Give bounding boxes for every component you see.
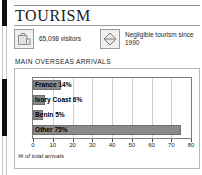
stats-row: 65,098 visitors Negligible tourism since… — [14, 29, 200, 55]
x-tick-label: 10 — [49, 142, 56, 149]
x-tick-label: 60 — [148, 142, 155, 149]
chart-panel: France 14%Ivory Coast 6%Benin 5%Other 75… — [14, 68, 200, 169]
x-tick-label: 20 — [69, 142, 76, 149]
chart-bar-row: Other 75% — [33, 123, 191, 138]
section-heading: MAIN OVERSEAS ARRIVALS — [15, 58, 111, 65]
stat-trend: Negligible tourism since 1990 — [100, 29, 197, 49]
content-column: TOURISM 65,098 visitors — [12, 0, 202, 175]
chart-bars: France 14%Ivory Coast 6%Benin 5%Other 75… — [33, 78, 191, 138]
x-tick-label: 80 — [188, 142, 195, 149]
diamond-icon — [100, 29, 120, 49]
chart-bar-row: France 14% — [33, 78, 191, 93]
page-title: TOURISM — [15, 7, 91, 24]
stat-visitors: 65,098 visitors — [14, 29, 81, 49]
x-tick-label: 30 — [89, 142, 96, 149]
stat-trend-label: Negligible tourism since 1990 — [125, 31, 197, 47]
suitcase-icon — [14, 29, 34, 49]
x-tick-label: 40 — [109, 142, 116, 149]
tourism-infographic-page: TOURISM 65,098 visitors — [0, 0, 202, 175]
chart-bar-row: Benin 5% — [33, 108, 191, 123]
title-underline-divider — [14, 25, 200, 26]
chart-bar-label: Ivory Coast 6% — [35, 96, 82, 104]
x-tick-label: 50 — [128, 142, 135, 149]
x-tick-label: 0 — [31, 142, 34, 149]
chart-plot-area: France 14%Ivory Coast 6%Benin 5%Other 75… — [32, 77, 192, 139]
top-divider — [14, 5, 200, 6]
chart-x-axis: 01020304050607080 — [32, 139, 192, 151]
chart-bar-label: France 14% — [35, 81, 72, 89]
page-edge-marker-middle — [2, 79, 7, 136]
chart-x-axis-label: % of total arrivals — [18, 153, 64, 159]
page-edge-marker-top — [2, 0, 7, 26]
chart-bar-label: Benin 5% — [35, 111, 65, 119]
chart-bar-label: Other 75% — [35, 126, 68, 134]
x-tick-label: 70 — [168, 142, 175, 149]
stat-visitors-label: 65,098 visitors — [39, 35, 81, 43]
chart-bar-row: Ivory Coast 6% — [33, 93, 191, 108]
